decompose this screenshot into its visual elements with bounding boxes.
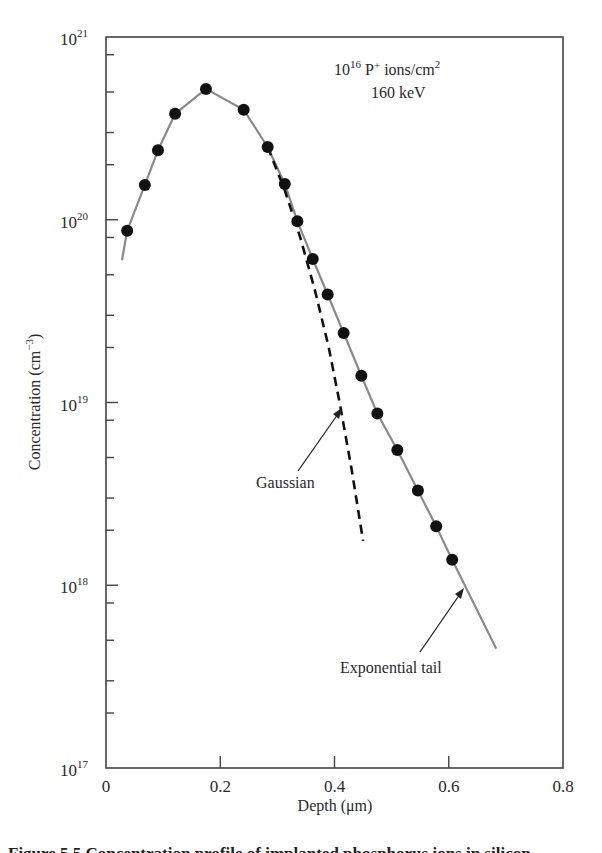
y-tick-label: 1017 <box>60 758 89 780</box>
data-point <box>338 327 350 339</box>
data-point <box>279 178 291 190</box>
data-point <box>322 288 334 300</box>
exponential-tail-arrowhead-icon <box>455 588 464 599</box>
figure-caption: Figure 5.5 Concentration profile of impl… <box>8 842 598 853</box>
data-point <box>200 83 212 95</box>
data-point <box>412 484 424 496</box>
data-point <box>430 520 442 532</box>
data-point <box>169 108 181 120</box>
implant-profile-chart: 10211020101910181017 00.20.40.60.8 1016 … <box>0 0 602 853</box>
data-point <box>291 215 303 227</box>
y-axis-tick-labels: 10211020101910181017 <box>60 27 89 780</box>
data-point <box>391 444 403 456</box>
data-point <box>355 370 367 382</box>
fit-curve <box>122 89 496 649</box>
x-tick-label: 0.2 <box>210 777 231 796</box>
gaussian-arrow <box>298 414 338 471</box>
exponential-tail-label: Exponential tail <box>340 659 442 677</box>
data-point <box>446 554 458 566</box>
y-axis-ticks <box>106 55 118 713</box>
x-tick-label: 0.8 <box>552 777 573 796</box>
x-axis-tick-labels: 00.20.40.60.8 <box>102 777 574 796</box>
x-tick-label: 0.6 <box>438 777 459 796</box>
x-axis-ticks <box>220 756 449 768</box>
measured-data-points <box>121 83 458 566</box>
x-tick-label: 0.4 <box>324 777 346 796</box>
data-point <box>371 408 383 420</box>
data-point <box>262 141 274 153</box>
plot-frame <box>106 37 563 768</box>
y-tick-label: 1019 <box>60 393 89 415</box>
data-point <box>238 104 250 116</box>
x-tick-label: 0 <box>102 777 111 796</box>
gaussian-label: Gaussian <box>256 474 315 491</box>
y-axis-title: Concentration (cm−3) <box>23 334 44 471</box>
data-point <box>139 179 151 191</box>
y-tick-label: 1020 <box>60 210 89 232</box>
y-tick-label: 1021 <box>60 27 88 49</box>
data-point <box>307 253 319 265</box>
data-point <box>152 144 164 156</box>
energy-annotation: 160 keV <box>371 84 426 101</box>
data-point <box>121 225 133 237</box>
exponential-tail-arrow <box>420 594 460 652</box>
y-tick-label: 1018 <box>60 575 89 597</box>
x-axis-title: Depth (μm) <box>298 797 373 815</box>
dose-annotation: 1016 P+ ions/cm2 <box>334 58 440 78</box>
